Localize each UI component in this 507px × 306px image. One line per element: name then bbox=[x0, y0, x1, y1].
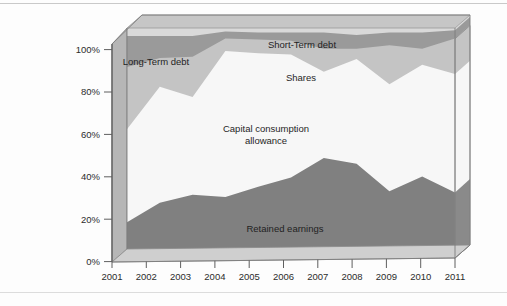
x-tick-label-2005: 2005 bbox=[239, 271, 260, 282]
y-tick-label-80: 80% bbox=[81, 86, 101, 97]
y-tick-label-40: 40% bbox=[81, 171, 101, 182]
y-tick-label-20: 20% bbox=[81, 214, 101, 225]
y-tick-label-60: 60% bbox=[81, 129, 101, 140]
x-tick-label-2004: 2004 bbox=[204, 271, 225, 282]
chart-card: 100% 80% 60% 40% 20% 0% 2001 bbox=[0, 0, 507, 306]
x-tick-label-2008: 2008 bbox=[342, 271, 363, 282]
x-tick-label-2001: 2001 bbox=[101, 271, 122, 282]
x-tick-label-2011: 2011 bbox=[445, 271, 465, 282]
stacked-area-chart: 100% 80% 60% 40% 20% 0% 2001 bbox=[0, 0, 507, 306]
series-label-short-term-debt: Short-Term debt bbox=[268, 39, 336, 50]
x-tick-label-2007: 2007 bbox=[307, 271, 328, 282]
x-tick-label-2002: 2002 bbox=[136, 271, 157, 282]
y-axis: 100% 80% 60% 40% 20% 0% bbox=[76, 44, 112, 267]
chart-3d-right-face bbox=[455, 15, 470, 258]
series-label-capital-consumption-line1: Capital consumption bbox=[223, 123, 309, 134]
x-tick-label-2009: 2009 bbox=[376, 271, 397, 282]
y-tick-label-100: 100% bbox=[76, 44, 101, 55]
y-tick-label-0: 0% bbox=[86, 256, 100, 267]
x-tick-label-2006: 2006 bbox=[273, 271, 294, 282]
series-label-capital-consumption-line2: allowance bbox=[245, 135, 287, 146]
chart-3d-top-face bbox=[127, 15, 470, 28]
x-tick-label-2010: 2010 bbox=[410, 271, 431, 282]
x-tick-label-2003: 2003 bbox=[170, 271, 191, 282]
series-label-retained-earnings: Retained earnings bbox=[246, 223, 323, 234]
series-label-long-term-debt: Long-Term debt bbox=[123, 56, 190, 67]
series-label-shares: Shares bbox=[286, 72, 316, 83]
